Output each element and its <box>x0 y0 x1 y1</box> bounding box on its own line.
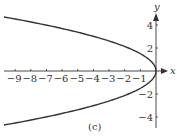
x-tick-label: −6 <box>54 73 69 84</box>
y-axis-label: y <box>153 1 160 12</box>
figure-caption: (c) <box>88 121 102 132</box>
x-tick-label: −2 <box>116 73 131 84</box>
x-tick-label: −5 <box>69 73 84 84</box>
x-tick-label: −4 <box>85 73 100 84</box>
y-axis-arrow-icon <box>153 13 159 21</box>
y-tick-label: −4 <box>138 112 153 123</box>
x-axis: −9−8−7−6−5−4−3−2−1 <box>4 68 168 84</box>
x-tick-label: −9 <box>7 73 22 84</box>
parabola-chart: −9−8−7−6−5−4−3−2−1 42−2−4 x y (c) <box>0 0 177 137</box>
x-tick-label: −3 <box>101 73 116 84</box>
y-tick-label: 4 <box>147 20 153 31</box>
x-axis-arrow-icon <box>161 68 168 74</box>
x-tick-label: −8 <box>22 73 37 84</box>
y-tick-label: 2 <box>147 43 153 54</box>
x-tick-label: −7 <box>38 73 53 84</box>
x-axis-label: x <box>170 65 176 76</box>
x-tick-label: −1 <box>132 73 147 84</box>
y-tick-label: −2 <box>138 89 153 100</box>
